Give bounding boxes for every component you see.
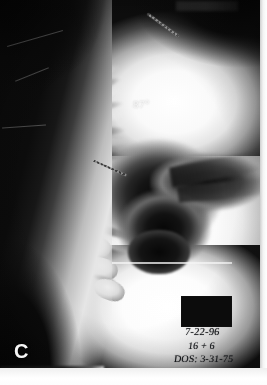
film-margin-right — [260, 0, 267, 368]
stamp-gestational-age: 16 + 6 — [187, 341, 264, 351]
film-scratch — [2, 124, 46, 128]
radiolucent-mass-inferior — [118, 186, 214, 272]
film-margin-bottom — [0, 368, 267, 385]
film-scratch — [7, 30, 63, 47]
corner-shadow-top-right — [100, 0, 260, 120]
vertebral-body — [92, 275, 128, 304]
collimation-edge — [112, 262, 232, 264]
film-scratch — [15, 67, 49, 81]
radiolucent-mass-right — [150, 148, 260, 218]
radiograph-figure: 87° C 7-22-96 16 + 6 DOS: 3-31-75 — [0, 0, 267, 385]
radiolucent-streak-lower — [177, 177, 260, 203]
handwritten-id-stamp: 7-22-96 16 + 6 DOS: 3-31-75 — [172, 327, 264, 364]
film-smudge-top-right — [176, 1, 238, 11]
posterior-skin-contour — [0, 0, 112, 368]
gas-pocket — [128, 230, 190, 274]
masked-id-block — [181, 296, 232, 327]
angle-measurement-label: 87° — [133, 98, 150, 110]
panel-letter-label: C — [14, 340, 28, 363]
stamp-dos-line: DOS: 3-31-75 — [173, 354, 264, 364]
stamp-exam-date: 7-22-96 — [184, 327, 264, 338]
radiolucent-streak-upper — [169, 149, 260, 188]
